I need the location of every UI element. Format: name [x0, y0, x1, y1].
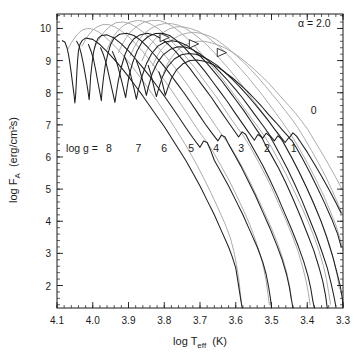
y-tick-label: 5 [45, 184, 51, 195]
figure-container: 4.14.03.93.83.73.63.53.43.3 2345678910 8… [0, 0, 359, 358]
y-tick-label: 8 [45, 88, 51, 99]
scientific-plot: 4.14.03.93.83.73.63.53.43.3 2345678910 8… [0, 0, 359, 358]
x-tick-label: 4.1 [50, 315, 64, 326]
x-tick-label: 3.5 [265, 315, 279, 326]
x-tick-label: 3.6 [229, 315, 243, 326]
logg-legend-prefix: log g = [66, 142, 98, 154]
x-tick-label: 3.3 [336, 315, 350, 326]
curve-label: 1 [291, 142, 297, 154]
x-tick-label: 3.4 [300, 315, 314, 326]
x-axis-tick-labels: 4.14.03.93.83.73.63.53.43.3 [50, 315, 350, 326]
alpha-annotation: α = 2.0 [298, 17, 331, 29]
y-tick-label: 7 [45, 120, 51, 131]
curve-label: 7 [136, 142, 142, 154]
y-tick-label: 4 [45, 216, 51, 227]
x-tick-label: 3.9 [122, 315, 136, 326]
curve-label: 6 [161, 142, 167, 154]
curve-label: 4 [213, 142, 219, 154]
curve-label: 3 [238, 142, 244, 154]
x-tick-label: 4.0 [86, 315, 100, 326]
curve-label: 0 [311, 104, 317, 116]
y-tick-label: 2 [45, 281, 51, 292]
curve-label: 2 [264, 142, 270, 154]
x-tick-label: 3.7 [193, 315, 207, 326]
figure-background [0, 0, 359, 358]
y-tick-label: 6 [45, 152, 51, 163]
x-tick-label: 3.8 [157, 315, 171, 326]
curve-label: 5 [188, 142, 194, 154]
y-tick-label: 9 [45, 56, 51, 67]
y-tick-label: 3 [45, 248, 51, 259]
curve-label: 8 [106, 142, 112, 154]
y-tick-label: 10 [40, 23, 52, 34]
